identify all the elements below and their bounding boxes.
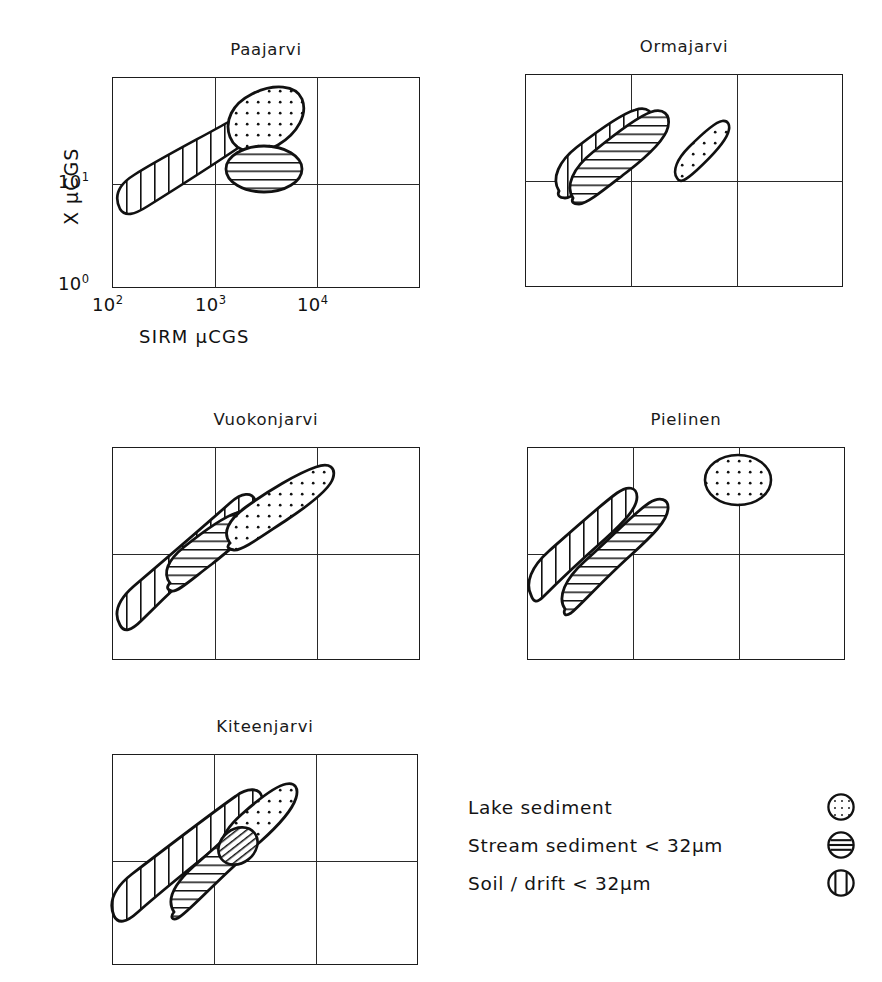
x-tick-100: 102	[92, 293, 123, 315]
legend: Lake sediment Stream sediment < 32µm Soi…	[468, 788, 868, 902]
vertical-split-circle-icon	[826, 868, 856, 898]
envelopes-kiteenjarvi	[112, 754, 418, 965]
panel-title-kiteenjarvi: Kiteenjarvi	[112, 717, 418, 736]
envelopes-paajarvi	[112, 77, 420, 288]
legend-item-stream-sediment: Stream sediment < 32µm	[468, 826, 868, 864]
y-tick-1: 100	[58, 272, 89, 294]
legend-item-soil-drift: Soil / drift < 32µm	[468, 864, 868, 902]
horizontal-striped-circle-icon	[826, 830, 856, 860]
envelope-stream-sediment-paajarvi	[226, 146, 302, 192]
panel-title-pielinen: Pielinen	[527, 410, 845, 429]
panel-title-vuokonjarvi: Vuokonjarvi	[112, 410, 420, 429]
envelopes-ormajarvi	[525, 74, 843, 287]
x-axis-label: SIRM µCGS	[139, 326, 250, 347]
envelope-lake-sediment-ormajarvi	[675, 121, 729, 181]
envelopes-vuokonjarvi	[112, 447, 420, 660]
x-tick-1000: 103	[195, 293, 226, 315]
panel-title-ormajarvi: Ormajarvi	[525, 37, 843, 56]
dotted-circle-icon	[826, 792, 856, 822]
envelopes-pielinen	[527, 447, 845, 660]
legend-label-stream-sediment: Stream sediment < 32µm	[468, 835, 723, 856]
envelope-lake-sediment-paajarvi	[228, 87, 304, 152]
running-header	[0, 0, 882, 3]
envelope-lake-sediment-pielinen	[705, 455, 771, 505]
panel-title-paajarvi: Paajarvi	[112, 40, 420, 59]
legend-label-lake-sediment: Lake sediment	[468, 797, 612, 818]
x-tick-10000: 104	[297, 293, 328, 315]
y-tick-10: 101	[58, 170, 89, 192]
legend-item-lake-sediment: Lake sediment	[468, 788, 868, 826]
legend-label-soil-drift: Soil / drift < 32µm	[468, 873, 651, 894]
